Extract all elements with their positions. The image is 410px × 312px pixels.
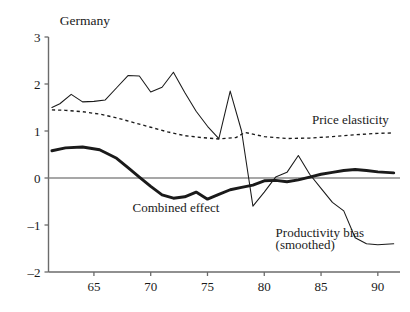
annotation-layer: GermanyPrice elasticityCombined effectPr… bbox=[60, 13, 389, 252]
chart-figure: –2–10123 657075808590 GermanyPrice elast… bbox=[0, 0, 410, 312]
chart-title: Germany bbox=[60, 13, 110, 28]
series-layer bbox=[52, 72, 394, 244]
series-line-combined-effect bbox=[52, 147, 394, 199]
x-tick-label: 90 bbox=[371, 279, 384, 294]
combined-effect-label: Combined effect bbox=[133, 200, 220, 215]
y-tick-label: 1 bbox=[34, 124, 41, 139]
y-tick-label: 3 bbox=[34, 30, 41, 45]
y-tick-label: –1 bbox=[27, 218, 41, 233]
y-tick-label: 2 bbox=[34, 77, 41, 92]
x-tick-label: 70 bbox=[144, 279, 157, 294]
x-tick-label: 75 bbox=[201, 279, 214, 294]
price-elasticity-label: Price elasticity bbox=[312, 112, 389, 127]
series-line-productivity-bias bbox=[52, 72, 394, 244]
x-tick-label: 80 bbox=[258, 279, 271, 294]
x-tick-label: 85 bbox=[315, 279, 328, 294]
x-axis-ticks: 657075808590 bbox=[87, 272, 384, 294]
y-tick-label: 0 bbox=[34, 171, 41, 186]
x-tick-label: 65 bbox=[87, 279, 100, 294]
y-axis-ticks: –2–10123 bbox=[27, 30, 49, 280]
y-tick-label: –2 bbox=[27, 265, 41, 280]
chart-canvas: –2–10123 657075808590 GermanyPrice elast… bbox=[0, 0, 410, 312]
productivity-bias-sublabel: (smoothed) bbox=[276, 237, 335, 252]
